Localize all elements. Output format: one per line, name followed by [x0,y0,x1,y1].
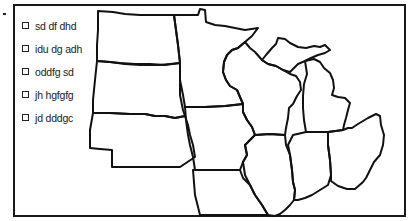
legend-swatch-icon [22,68,29,75]
state-indiana [288,132,331,200]
legend-label: jd dddgc [35,112,73,124]
state-michigan-upper [262,38,330,72]
legend-label: idu dg adh [35,43,82,55]
state-ohio [328,114,384,189]
legend-label: sd df dhd [35,20,76,32]
legend-item: oddfg sd [22,60,112,83]
legend-item: jh hgfgfg [22,83,112,106]
legend-item: sd df dhd [22,14,112,37]
legend-item: jd dddgc [22,106,112,129]
legend-label: jh hgfgfg [35,89,73,101]
state-minnesota [174,9,258,107]
legend-swatch-icon [22,91,29,98]
legend-label: oddfg sd [35,66,74,78]
legend-swatch-icon [22,45,29,52]
state-illinois [243,134,295,216]
legend-swatch-icon [22,114,29,121]
legend-item: idu dg adh [22,37,112,60]
map-legend: sd df dhd idu dg adh oddfg sd jh hgfgfg … [22,14,112,129]
state-missouri [193,170,268,215]
state-michigan-lower [303,59,350,132]
state-wisconsin [223,42,301,135]
legend-swatch-icon [22,22,29,29]
